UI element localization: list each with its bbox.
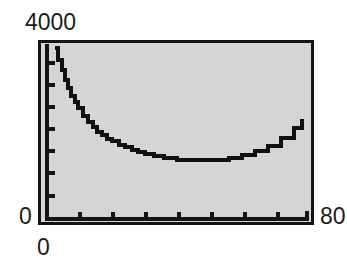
x-axis-min-label: 0 (37, 236, 50, 259)
plot-texture (39, 41, 313, 224)
chart-figure: 4000 0 0 80 (0, 0, 347, 279)
y-axis-max-label: 4000 (25, 11, 76, 34)
y-axis-min-label: 0 (19, 205, 32, 228)
chart-canvas (0, 0, 347, 279)
x-axis-max-label: 80 (320, 205, 346, 228)
